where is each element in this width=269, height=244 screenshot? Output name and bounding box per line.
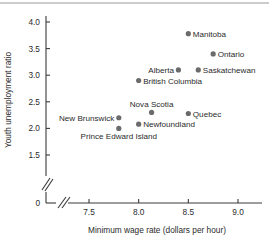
- data-point-marker: [149, 110, 154, 115]
- scatter-chart-figure: 1.52.02.53.03.54.007.58.08.59.0 Manitoba…: [0, 0, 269, 244]
- y-tick-label: 1.5: [28, 150, 40, 160]
- data-point-label: Ontario: [218, 50, 245, 59]
- data-points-group: ManitobaOntarioAlbertaSaskatchewanBritis…: [59, 30, 255, 142]
- data-point-label: Alberta: [148, 66, 174, 75]
- data-point-label: Prince Edward Island: [81, 132, 157, 141]
- x-tick-label: 8.5: [183, 207, 195, 217]
- data-point-marker: [116, 115, 121, 120]
- data-point-label: Saskatchewan: [203, 66, 256, 75]
- x-tick-label: 8.0: [133, 207, 145, 217]
- y-tick-label: 3.0: [28, 70, 40, 80]
- data-point-label: Manitoba: [193, 30, 227, 39]
- x-tick-label: 9.0: [232, 207, 244, 217]
- data-point-marker: [196, 67, 201, 72]
- data-point-label: Nova Scotia: [130, 100, 174, 109]
- data-point-marker: [211, 51, 216, 56]
- data-point-label: Newfoundland: [143, 120, 195, 129]
- data-point-marker: [116, 126, 121, 131]
- y-tick-label: 2.5: [28, 97, 40, 107]
- y-tick-label: 4.0: [28, 17, 40, 27]
- y-axis-title: Youth unemployment ratio: [3, 52, 13, 148]
- x-axis-title: Minimum wage rate (dollars per hour): [88, 225, 226, 235]
- data-point-marker: [176, 67, 181, 72]
- data-point-label: British Columbia: [143, 77, 202, 86]
- x-tick-label: 7.5: [83, 207, 95, 217]
- data-point-marker: [186, 111, 191, 116]
- origin-tick-label: 0: [35, 198, 40, 208]
- data-point-marker: [186, 31, 191, 36]
- y-tick-label: 3.5: [28, 44, 40, 54]
- y-tick-label: 2.0: [28, 123, 40, 133]
- scatter-plot-svg: 1.52.02.53.03.54.007.58.08.59.0 Manitoba…: [0, 0, 269, 244]
- data-point-label: New Brunswick: [59, 114, 115, 123]
- data-point-marker: [136, 122, 141, 127]
- data-point-marker: [136, 78, 141, 83]
- data-point-label: Quebec: [193, 110, 221, 119]
